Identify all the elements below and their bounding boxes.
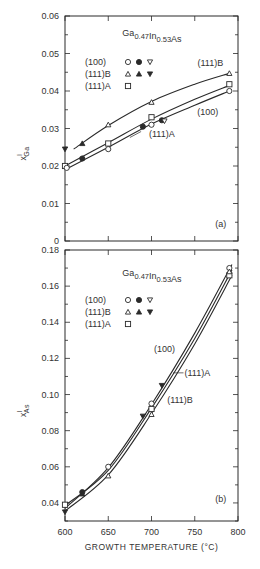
legend-label: (100) [85,57,106,67]
legend-label: (111)B [85,307,111,317]
y-axis-label-text: xlGa [16,146,30,160]
y-tick-label: 0.04 [41,498,59,508]
open-circle-marker [149,401,154,406]
open-square-marker [125,321,130,326]
annotation: (b) [215,494,226,504]
open-square-marker [227,82,232,87]
open-square-marker [149,115,154,120]
y-label-sub: Ga [23,146,30,156]
filled-triangle-marker [136,71,141,76]
y-tick-label: 0.14 [41,317,59,327]
panel-a: 00.010.020.030.040.050.06xlGaGa0.47In0.5… [16,11,238,246]
x-tick-label: 650 [101,527,116,537]
open-down-triangle-marker [147,60,152,65]
y-axis-label: xlAs [16,404,30,417]
open-triangle-marker [106,473,111,478]
filled-circle-marker [136,297,141,302]
y-label-sub: As [23,404,30,413]
series-curve-111a [65,270,232,506]
y-tick-label: 0.10 [41,390,59,400]
legend-label: (111)B [85,69,111,79]
legend-label: (111)A [85,81,111,91]
open-triangle-marker [227,71,232,76]
open-square-marker [149,406,154,411]
filled-down-triangle-marker [62,147,67,152]
plot-frame [65,250,238,521]
chart-title: Ga0.47In0.53As [122,268,182,284]
chart-title: Ga0.47In0.53As [122,28,182,44]
x-tick-label: 800 [230,527,245,537]
annotation: (111)B [197,58,223,68]
x-tick-label: 700 [144,527,159,537]
open-square-marker [125,83,130,88]
filled-circle-marker [80,156,85,161]
open-circle-marker [125,297,130,302]
x-axis-label: GROWTH TEMPERATURE (°C) [85,542,219,552]
annotation: (111)B [167,395,193,405]
y-tick-label: 0.03 [41,124,59,134]
open-square-marker [106,141,111,146]
panel-b: 0.040.060.080.100.120.140.160.1860065070… [16,245,246,552]
y-tick-label: 0.08 [41,426,59,436]
x-tick-label: 600 [57,527,72,537]
title-base: In [149,271,157,281]
annotation: (a) [215,219,226,229]
filled-down-triangle-marker [147,72,152,77]
y-tick-label: 0.05 [41,49,59,59]
y-label-sup: l [16,154,23,156]
y-tick-label: 0.02 [41,161,59,171]
title-base: As [171,34,182,44]
y-tick-label: 0.12 [41,353,59,363]
title-subscript: 0.53 [157,275,172,284]
open-circle-marker [64,165,69,170]
legend-label: (100) [85,295,106,305]
open-triangle-marker [125,309,130,314]
open-triangle-marker [125,71,130,76]
annotation: (111)A [185,368,211,378]
y-tick-label: 0.18 [41,245,59,255]
title-base: Ga [122,28,134,38]
x-tick-label: 750 [187,527,202,537]
y-tick-label: 0.04 [41,86,59,96]
title-base: As [171,274,182,284]
filled-triangle-marker [136,309,141,314]
filled-circle-marker [136,59,141,64]
title-subscript: 0.53 [157,35,172,44]
y-tick-label: 0.01 [41,199,59,209]
open-triangle-marker [149,412,154,417]
open-circle-marker [227,88,232,93]
legend-label: (111)A [85,319,111,329]
annotation: (111)A [149,129,175,139]
annotation: (100) [154,344,175,354]
open-circle-marker [125,59,130,64]
open-down-triangle-marker [147,298,152,303]
title-subscript: 0.47 [134,32,149,41]
filled-down-triangle-marker [62,510,67,515]
chart-figure: 00.010.020.030.040.050.06xlGaGa0.47In0.5… [0,0,260,569]
open-square-marker [62,502,67,507]
y-tick-label: 0.06 [41,11,59,21]
y-tick-label: 0.06 [41,462,59,472]
title-subscript: 0.47 [134,272,149,281]
y-label-sup: l [16,410,23,412]
y-tick-label: 0.16 [41,281,59,291]
title-base: In [149,31,157,41]
annotation: (100) [197,107,218,117]
filled-circle-marker [140,124,145,129]
open-circle-marker [149,122,154,127]
y-axis-label: xlGa [16,146,30,160]
y-axis-label-text: xlAs [16,404,30,417]
filled-down-triangle-marker [147,310,152,315]
series-curve-100 [65,91,229,170]
title-base: Ga [122,268,134,278]
open-circle-marker [106,147,111,152]
open-circle-marker [106,464,111,469]
